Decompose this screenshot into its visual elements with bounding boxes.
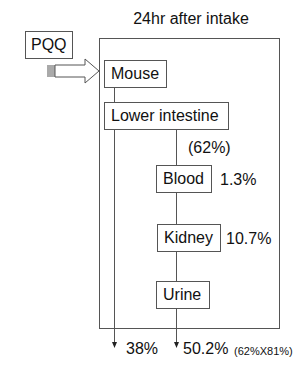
lower-intestine-box: Lower intestine bbox=[104, 102, 229, 130]
feces-output-percent: 38% bbox=[126, 341, 158, 357]
input-arrow-icon bbox=[48, 59, 99, 83]
absorbed-percent: (62%) bbox=[188, 140, 231, 156]
urine-output-percent: 50.2% bbox=[183, 341, 228, 357]
pqq-box: PQQ bbox=[25, 31, 73, 59]
arrowhead-center bbox=[174, 342, 179, 348]
blood-box: Blood bbox=[156, 165, 212, 193]
kidney-percent: 10.7% bbox=[226, 231, 271, 247]
diagram-title: 24hr after intake bbox=[0, 11, 306, 27]
kidney-box: Kidney bbox=[157, 224, 221, 252]
urine-box: Urine bbox=[156, 281, 210, 309]
arrowhead-left bbox=[112, 342, 117, 348]
blood-percent: 1.3% bbox=[220, 172, 256, 188]
urine-output-calculation: (62%X81%) bbox=[234, 346, 293, 357]
mouse-box: Mouse bbox=[104, 60, 167, 88]
